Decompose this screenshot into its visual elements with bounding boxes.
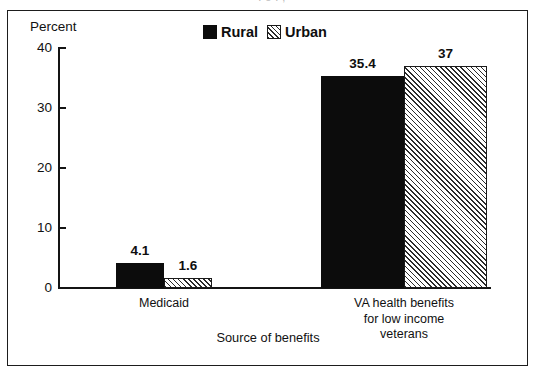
chart-legend: Rural Urban	[203, 24, 327, 40]
bar-urban-1	[404, 66, 487, 288]
hatched-swatch	[267, 25, 281, 39]
bar-value-urban-0: 1.6	[154, 258, 222, 273]
bars-layer	[0, 0, 544, 288]
bar-value-urban-1: 37	[394, 46, 497, 61]
category-label-0: Medicaid	[74, 296, 254, 312]
legend-item-urban: Urban	[267, 24, 327, 40]
solid-swatch	[203, 25, 217, 39]
chart-screenshot: . o . , Percent 010203040 4.11.635.437 M…	[0, 0, 544, 378]
bar-urban-0	[164, 278, 212, 288]
plot-area: Percent 010203040 4.11.635.437 MedicaidV…	[0, 0, 544, 378]
x-axis-title: Source of benefits	[0, 330, 544, 345]
x-axis-title-text: Source of benefits	[216, 330, 319, 345]
legend-label-rural: Rural	[221, 24, 258, 40]
bar-value-rural-0: 4.1	[106, 243, 174, 258]
legend-item-rural: Rural	[203, 24, 258, 40]
legend-label-urban: Urban	[285, 24, 327, 40]
bar-rural-1	[321, 76, 404, 288]
